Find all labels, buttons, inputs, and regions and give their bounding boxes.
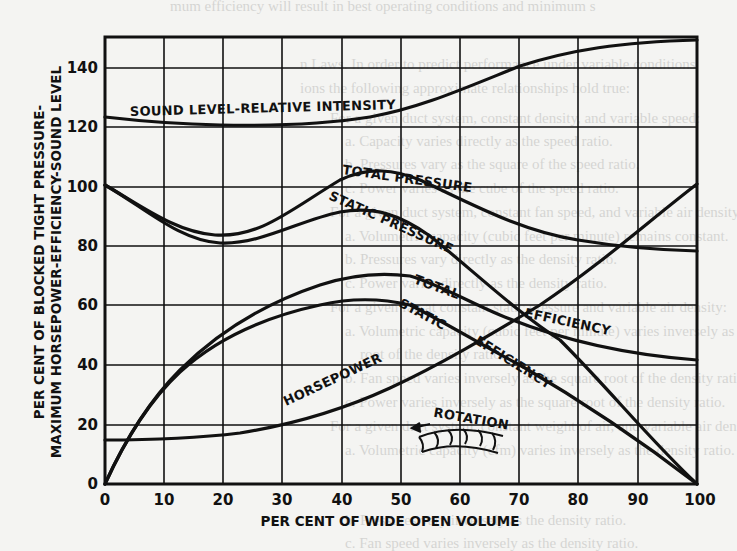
static-efficiency-label-static: STATIC <box>397 295 449 332</box>
rotation-annotation: ROTATION <box>412 405 510 453</box>
y-tick: 120 <box>67 118 98 136</box>
x-tick: 90 <box>628 491 649 509</box>
y-axis-title-line2: MAXIMUM HORSEPOWER-EFFICIENCY-SOUND LEVE… <box>48 65 64 458</box>
x-tick: 0 <box>100 491 110 509</box>
y-tick: 100 <box>67 178 98 196</box>
x-axis-title: PER CENT OF WIDE OPEN VOLUME <box>260 513 519 529</box>
x-tick: 40 <box>332 491 353 509</box>
y-tick: 140 <box>67 59 98 77</box>
x-tick: 80 <box>568 491 589 509</box>
fan-performance-chart: 0 20 40 60 80 100 120 140 0 10 20 30 40 … <box>0 0 737 551</box>
x-tick: 100 <box>684 491 715 509</box>
x-axis-ticks: 0 10 20 30 40 50 60 70 80 90 100 <box>100 491 716 509</box>
y-axis-ticks: 0 20 40 60 80 100 120 140 <box>67 59 98 493</box>
x-tick: 50 <box>391 491 412 509</box>
rotation-label: ROTATION <box>433 405 510 433</box>
x-tick: 20 <box>213 491 234 509</box>
x-tick: 70 <box>509 491 530 509</box>
sound-level-label: SOUND LEVEL-RELATIVE INTENSITY <box>130 97 397 119</box>
y-tick: 60 <box>77 296 98 314</box>
total-pressure-label: TOTAL PRESSURE <box>342 162 474 195</box>
x-tick: 60 <box>450 491 471 509</box>
y-tick: 0 <box>88 475 98 493</box>
y-axis-title-line1: PER CENT OF BLOCKED TIGHT PRESSURE- <box>31 105 47 419</box>
y-tick: 20 <box>77 416 98 434</box>
total-efficiency-label-total: TOTAL <box>412 272 462 302</box>
x-tick: 30 <box>272 491 293 509</box>
total-efficiency-label-efficiency: EFFICIENCY <box>523 305 612 338</box>
y-tick: 40 <box>77 356 98 374</box>
horsepower-label: HORSEPOWER <box>281 350 384 409</box>
fan-impeller-blade-icon <box>419 429 503 453</box>
static-efficiency-label-efficiency: EFFICIENCY <box>472 333 554 392</box>
y-tick: 80 <box>77 237 98 255</box>
x-tick: 10 <box>154 491 175 509</box>
